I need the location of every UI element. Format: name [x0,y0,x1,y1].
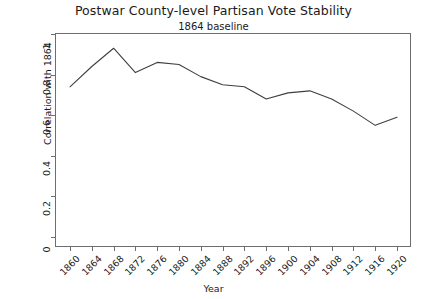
y-tick-label: 0 [41,237,52,263]
page-title: Postwar County-level Partisan Vote Stabi… [0,3,427,18]
x-tick-mark [114,247,115,251]
y-tick-label: 0.4 [41,155,52,181]
y-tick-label: 0.8 [41,74,52,100]
x-tick-mark [310,247,311,251]
x-tick-mark [179,247,180,251]
x-tick-mark [70,247,71,251]
x-tick-mark [157,247,158,251]
y-tick-label: 1 [41,34,52,60]
x-tick-mark [201,247,202,251]
x-tick-mark [135,247,136,251]
x-tick-mark [353,247,354,251]
y-tick-label: 0.6 [41,115,52,141]
y-tick-label: 0.2 [41,196,52,222]
x-axis-label: Year [0,283,427,294]
x-tick-mark [92,247,93,251]
chart-figure: Postwar County-level Partisan Vote Stabi… [0,0,427,299]
series-layer [55,33,411,247]
x-tick-mark [288,247,289,251]
x-tick-mark [332,247,333,251]
x-tick-mark [244,247,245,251]
x-tick-mark [223,247,224,251]
data-series-line [70,48,397,125]
x-tick-mark [266,247,267,251]
chart-subtitle: 1864 baseline [0,21,427,32]
x-tick-mark [397,247,398,251]
x-tick-mark [375,247,376,251]
